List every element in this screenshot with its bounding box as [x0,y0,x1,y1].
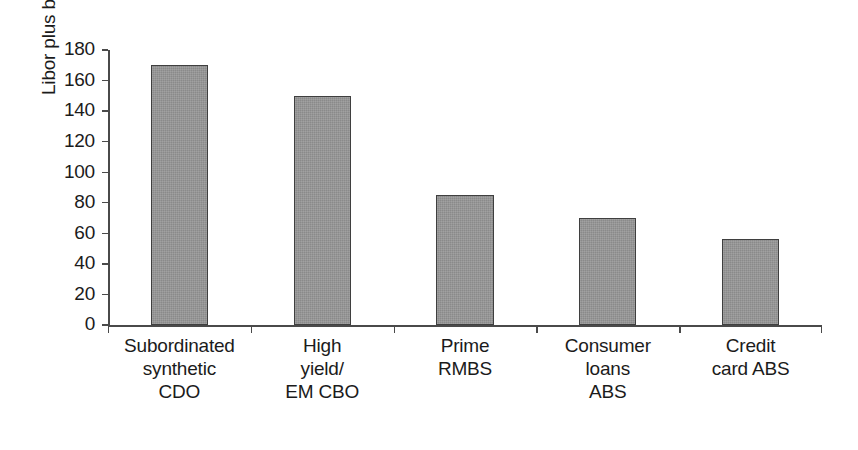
y-axis-tick: 100 [102,172,108,173]
x-axis-category-label: Prime RMBS [394,334,537,380]
y-axis-tick-label: 160 [64,69,95,91]
x-axis-tick [821,326,822,333]
y-axis-tick: 40 [102,263,108,264]
bar [722,239,779,325]
x-axis-tick [679,326,680,333]
y-axis-tick: 120 [102,141,108,142]
y-axis-tick-label: 0 [85,313,95,335]
x-axis-tick [108,326,109,333]
x-axis-category-label: Consumer loans ABS [536,334,679,403]
y-axis-tick: 140 [102,110,108,111]
bar [294,96,351,325]
chart-figure: Libor plus bps 020406080100120140160180 … [0,0,858,450]
y-axis-tick: 80 [102,202,108,203]
y-axis-tick: 180 [102,49,108,50]
y-axis-tick-label: 20 [74,283,95,305]
bar [151,65,208,325]
y-axis-tick-label: 120 [64,130,95,152]
x-axis-tick [536,326,537,333]
x-axis-line [108,325,822,327]
x-axis-tick [251,326,252,333]
bar [579,218,636,325]
y-axis-tick-label: 180 [64,38,95,60]
y-axis-tick: 20 [102,294,108,295]
y-axis-tick-label: 140 [64,99,95,121]
x-axis-tick [394,326,395,333]
x-axis-category-label: High yield/ EM CBO [251,334,394,403]
y-axis-tick-label: 100 [64,160,95,182]
y-axis-tick-label: 60 [74,221,95,243]
bar [436,195,493,325]
y-axis-tick-label: 40 [74,252,95,274]
y-axis-tick: 60 [102,233,108,234]
y-axis-tick: 160 [102,80,108,81]
x-axis-category-label: Credit card ABS [679,334,822,380]
plot-area: 020406080100120140160180 [108,44,822,329]
y-axis-tick-label: 80 [74,191,95,213]
y-axis-line [108,50,110,325]
y-axis-title: Libor plus bps [38,0,60,95]
x-axis-category-label: Subordinated synthetic CDO [108,334,251,403]
